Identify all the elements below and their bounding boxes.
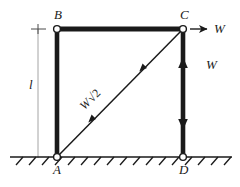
member-AC-group <box>57 29 183 157</box>
node-label-A: A <box>53 163 61 176</box>
joint-B <box>54 26 61 33</box>
diagram-canvas <box>0 0 240 187</box>
dimension-line-group <box>31 24 46 158</box>
dimension-label-l: l <box>29 78 33 91</box>
node-label-B: B <box>54 8 62 21</box>
truss-diagram-figure: B C A D l W W W√2 <box>0 0 240 187</box>
joint-D <box>180 154 187 161</box>
joint-A <box>54 154 61 161</box>
force-label-horizontal-W: W <box>214 22 225 35</box>
arrow-CD-up <box>178 57 188 68</box>
ground-line-group <box>10 157 232 165</box>
node-label-C: C <box>180 8 189 21</box>
arrow-CD-down <box>178 119 188 130</box>
node-label-D: D <box>179 163 188 176</box>
joint-C <box>180 26 187 33</box>
force-label-vertical-W: W <box>206 58 217 71</box>
